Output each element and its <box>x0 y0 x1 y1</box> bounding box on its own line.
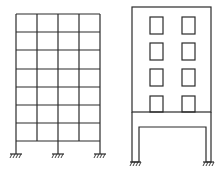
moment-frame <box>16 14 100 154</box>
fixed-support-icon <box>10 154 22 158</box>
fixed-support-icon <box>52 154 64 158</box>
soft-storey-building <box>132 7 211 162</box>
structural-diagram <box>0 0 220 174</box>
fixed-support-icon <box>94 154 106 158</box>
